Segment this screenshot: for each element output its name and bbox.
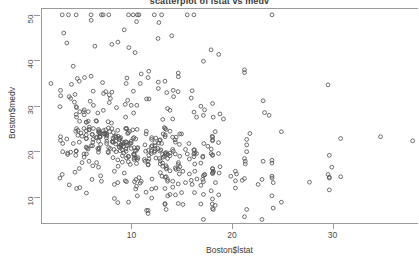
data-point <box>180 191 184 195</box>
data-point <box>209 48 213 52</box>
data-point <box>125 76 129 80</box>
data-point <box>245 143 249 147</box>
data-point <box>168 129 172 133</box>
data-point <box>85 191 89 195</box>
data-point <box>201 178 205 182</box>
data-point <box>122 28 126 32</box>
data-point <box>124 115 128 119</box>
x-tick-label: 10 <box>116 230 146 240</box>
data-point <box>154 156 158 160</box>
data-point <box>222 117 226 121</box>
data-point <box>99 174 103 178</box>
data-point <box>209 147 213 151</box>
data-point <box>279 200 283 204</box>
data-point <box>135 194 139 198</box>
data-point <box>60 173 64 177</box>
data-point <box>112 197 116 201</box>
data-point <box>73 93 77 97</box>
data-point <box>77 167 81 171</box>
data-point <box>184 181 188 185</box>
data-point <box>83 76 87 80</box>
data-point <box>116 201 120 205</box>
data-point <box>185 152 189 156</box>
data-point <box>218 112 222 116</box>
data-point <box>263 111 267 115</box>
data-point <box>411 139 415 143</box>
data-point <box>202 218 206 222</box>
data-point <box>154 136 158 140</box>
data-point <box>88 99 92 103</box>
data-point <box>107 93 111 97</box>
data-point <box>111 131 115 135</box>
data-point <box>86 110 90 114</box>
data-point <box>147 97 151 101</box>
data-point <box>126 160 130 164</box>
y-tick-label: 10 <box>26 196 35 212</box>
data-point <box>96 111 100 115</box>
data-point <box>211 197 215 201</box>
x-tick-label: 20 <box>217 230 247 240</box>
data-point <box>67 13 71 17</box>
data-point <box>189 178 193 182</box>
data-point <box>261 159 265 163</box>
data-point <box>112 169 116 173</box>
data-point <box>101 81 105 85</box>
data-point <box>110 42 114 46</box>
data-point <box>243 162 247 166</box>
data-point <box>135 162 139 166</box>
data-point <box>176 182 180 186</box>
data-point <box>187 172 191 176</box>
data-point <box>173 152 177 156</box>
data-point <box>89 18 93 22</box>
data-point <box>181 203 185 207</box>
scatter-plot-figure: scatterplot of lstat vs medv 1020304050 … <box>0 0 419 262</box>
data-point <box>116 128 120 132</box>
data-point <box>76 133 80 137</box>
data-point <box>138 82 142 86</box>
data-point <box>245 150 249 154</box>
x-tick-mark <box>232 224 233 229</box>
data-point <box>190 89 194 93</box>
data-point <box>122 171 126 175</box>
data-point <box>91 103 95 107</box>
data-point <box>190 183 194 187</box>
data-point <box>71 142 75 146</box>
data-point <box>150 196 154 200</box>
data-point <box>234 186 238 190</box>
data-point <box>75 115 79 119</box>
data-point <box>171 179 175 183</box>
data-point <box>260 218 264 222</box>
data-point <box>327 153 331 157</box>
data-point <box>176 90 180 94</box>
data-point <box>71 64 75 68</box>
data-point <box>195 177 199 181</box>
data-point <box>144 129 148 133</box>
data-point <box>111 156 115 160</box>
data-point <box>192 13 196 17</box>
data-point <box>245 208 249 212</box>
data-point <box>139 72 143 76</box>
y-tick-mark <box>34 151 40 152</box>
data-point <box>70 83 74 87</box>
data-point <box>170 34 174 38</box>
data-point <box>160 13 164 17</box>
data-point <box>178 154 182 158</box>
data-point <box>218 165 222 169</box>
data-point <box>156 87 160 91</box>
data-point <box>127 200 131 204</box>
y-tick-mark <box>34 106 40 107</box>
data-points-layer <box>41 8 418 224</box>
data-point <box>156 37 160 41</box>
data-point <box>199 104 203 108</box>
data-point <box>158 171 162 175</box>
data-point <box>330 165 334 169</box>
data-point <box>115 106 119 110</box>
y-tick-mark <box>34 60 40 61</box>
data-point <box>217 141 221 145</box>
data-point <box>243 71 247 75</box>
data-point <box>91 164 95 168</box>
data-point <box>146 76 150 80</box>
data-point <box>75 77 79 81</box>
data-point <box>217 193 221 197</box>
data-point <box>157 21 161 25</box>
